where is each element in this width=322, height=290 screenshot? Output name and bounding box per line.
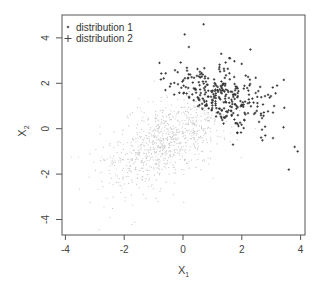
y-tick-label: 2 (40, 80, 51, 86)
x-axis: -4-2024 (61, 235, 304, 255)
x-tick-label: 0 (180, 244, 186, 255)
y-axis-title: X2 (16, 125, 30, 136)
y-axis-title-group: X2 (16, 125, 30, 136)
x-tick-label: 4 (298, 244, 304, 255)
legend-label: distribution 1 (76, 22, 133, 33)
x-axis-title: X1 (178, 264, 189, 278)
legend: distribution 1 distribution 2 (65, 22, 134, 44)
legend-label: distribution 2 (76, 33, 133, 44)
y-axis: -4-2024 (40, 35, 62, 224)
distribution-2-points (158, 23, 299, 171)
y-tick-label: -4 (40, 215, 51, 224)
y-tick-label: 0 (40, 125, 51, 131)
x-tick-label: -2 (120, 244, 129, 255)
legend-item-distribution-2: distribution 2 (65, 33, 134, 44)
y-tick-label: -2 (40, 169, 51, 178)
plus-marker-icon (65, 35, 72, 42)
x-tick-label: -4 (61, 244, 70, 255)
dot-marker-icon (67, 26, 70, 29)
scatter-chart: -4-2024 -4-2024 X1 X2 distribution 1 dis… (0, 0, 322, 290)
legend-item-distribution-1: distribution 1 (67, 22, 133, 33)
x-tick-label: 2 (239, 244, 245, 255)
y-tick-label: 4 (40, 35, 51, 41)
